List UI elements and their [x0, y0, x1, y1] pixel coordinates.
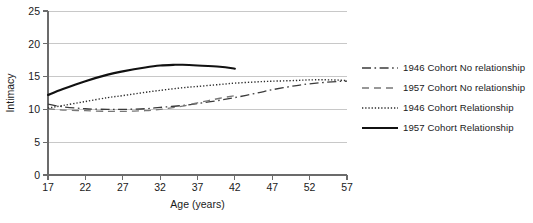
x-axis-title-text: Age (years) [170, 198, 224, 210]
x-axis-title: Age (years) [170, 198, 224, 210]
x-tick-label: 57 [341, 181, 353, 193]
legend-item-label: 1946 Cohort No relationship [403, 62, 525, 74]
legend-line-sample-dotted [362, 102, 398, 114]
legend-item[interactable]: 1957 Cohort Relationship [362, 118, 533, 138]
series-line-0 [48, 81, 347, 109]
data-series [48, 65, 347, 112]
series-line-3 [48, 65, 235, 95]
x-tick-marks [48, 175, 347, 180]
y-tick-label: 5 [34, 136, 40, 148]
series-line-2 [48, 80, 347, 108]
axis-lines [48, 11, 347, 175]
x-tick-labels: 172227323742475257 [42, 181, 353, 193]
chart-legend: 1946 Cohort No relationship1957 Cohort N… [362, 58, 533, 138]
legend-item[interactable]: 1946 Cohort Relationship [362, 98, 533, 118]
x-tick-label: 42 [229, 181, 241, 193]
y-tick-label: 20 [28, 38, 40, 50]
legend-item-label: 1946 Cohort Relationship [403, 102, 514, 114]
y-tick-label: 0 [34, 169, 40, 181]
y-tick-labels: 0510152025 [28, 5, 40, 181]
y-tick-label: 10 [28, 103, 40, 115]
legend-line-sample-dashed [362, 82, 398, 94]
y-tick-marks [43, 11, 48, 175]
y-axis-title-text: Intimacy [4, 73, 16, 113]
line-chart-figure: 0510152025 172227323742475257 Age (years… [0, 0, 360, 223]
y-tick-label: 25 [28, 5, 40, 17]
x-tick-label: 17 [42, 181, 54, 193]
legend-item-label: 1957 Cohort No relationship [403, 82, 525, 94]
x-tick-label: 37 [192, 181, 204, 193]
x-tick-label: 32 [154, 181, 166, 193]
x-tick-label: 22 [80, 181, 92, 193]
gridlines [48, 11, 347, 142]
legend-line-sample-solid [362, 122, 398, 134]
y-axis-title: Intimacy [4, 73, 16, 113]
legend-item[interactable]: 1957 Cohort No relationship [362, 78, 533, 98]
legend-item-label: 1957 Cohort Relationship [403, 122, 514, 134]
x-tick-label: 47 [266, 181, 278, 193]
legend-line-sample-dash-dot [362, 62, 398, 74]
x-tick-label: 27 [117, 181, 129, 193]
legend-item[interactable]: 1946 Cohort No relationship [362, 58, 533, 78]
plot-canvas: 0510152025 172227323742475257 Age (years… [0, 0, 360, 223]
y-tick-label: 15 [28, 70, 40, 82]
chart-screenshot: 0510152025 172227323742475257 Age (years… [0, 0, 533, 223]
x-tick-label: 52 [304, 181, 316, 193]
